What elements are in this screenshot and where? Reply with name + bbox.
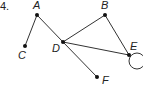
vertex-label-E: E: [130, 40, 138, 52]
vertex-label-F: F: [102, 74, 110, 86]
edge-D-B: [63, 15, 105, 42]
graph-diagram: 4. ABCDEF: [0, 0, 143, 98]
vertex-labels: ABCDEF: [18, 0, 138, 86]
vertex-C: [23, 44, 27, 48]
problem-number: 4.: [0, 0, 9, 12]
loops: [129, 53, 143, 69]
vertex-label-B: B: [101, 0, 108, 11]
edge-A-D: [37, 15, 63, 42]
vertex-F: [95, 75, 99, 79]
vertex-label-C: C: [18, 49, 26, 61]
vertex-D: [61, 40, 65, 44]
edge-D-E: [63, 42, 129, 55]
vertex-E: [127, 53, 131, 57]
vertex-label-D: D: [52, 42, 60, 54]
loop-E: [129, 53, 143, 69]
edge-B-E: [105, 15, 129, 55]
edges: [25, 15, 129, 77]
edge-A-C: [25, 15, 37, 46]
vertex-A: [35, 13, 39, 17]
vertices: [23, 13, 131, 79]
vertex-B: [103, 13, 107, 17]
vertex-label-A: A: [32, 0, 40, 11]
